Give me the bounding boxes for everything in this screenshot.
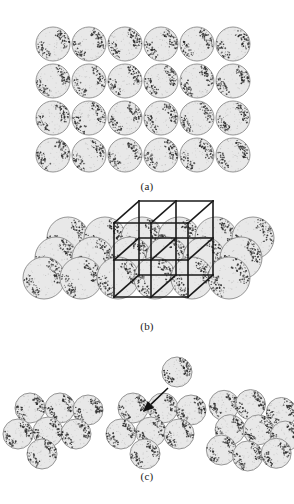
left-cluster	[3, 393, 103, 469]
sphere-r2-c4	[180, 101, 214, 135]
right-cluster-sphere-7	[233, 441, 263, 471]
sphere-r1-c4	[180, 64, 214, 98]
sphere-r2-c2	[108, 101, 142, 135]
sphere-r3-c5	[216, 138, 250, 172]
panel-a-label: (a)	[0, 180, 294, 192]
sphere-r0-c5	[216, 27, 250, 61]
sphere-r3-c4	[180, 138, 214, 172]
figure-root: (a) (b) (c)	[0, 0, 294, 504]
incoming-sphere	[162, 357, 192, 387]
middle-cluster	[106, 393, 206, 469]
sphere-r0-c2	[108, 27, 142, 61]
sphere-r3-c0	[36, 138, 70, 172]
panel-a-graphic	[0, 0, 294, 200]
sphere-r3-c1	[72, 138, 106, 172]
sphere-r0-c0	[36, 27, 70, 61]
sphere-r1-c5	[216, 64, 250, 98]
panel-c-label: (c)	[0, 470, 294, 482]
sphere-r1-c0	[36, 64, 70, 98]
right-cluster	[206, 390, 294, 471]
sphere-r3-c2	[108, 138, 142, 172]
sphere-r1-c3	[144, 64, 178, 98]
front-row-sphere-5	[208, 257, 250, 299]
sphere-r3-c3	[144, 138, 178, 172]
middle-cluster-sphere-6	[130, 439, 160, 469]
left-cluster-sphere-5	[61, 419, 91, 449]
sphere-r1-c2	[108, 64, 142, 98]
sphere-r2-c0	[36, 101, 70, 135]
front-row-sphere-1	[60, 257, 102, 299]
sphere-r2-c5	[216, 101, 250, 135]
middle-cluster-sphere-5	[164, 419, 194, 449]
right-cluster-sphere-6	[206, 435, 236, 465]
sphere-r0-c1	[72, 27, 106, 61]
sphere-r2-c3	[144, 101, 178, 135]
sphere-r0-c4	[180, 27, 214, 61]
panel-a	[0, 0, 294, 200]
left-cluster-sphere-6	[27, 439, 57, 469]
panel-b-label: (b)	[0, 320, 294, 332]
sphere-aggregate	[23, 217, 274, 299]
front-row-sphere-0	[23, 257, 65, 299]
sphere-grid	[36, 27, 250, 172]
sphere-r2-c1	[72, 101, 106, 135]
sphere-r1-c1	[72, 64, 106, 98]
sphere-r0-c3	[144, 27, 178, 61]
middle-cluster-sphere-3	[106, 419, 136, 449]
left-cluster-sphere-3	[3, 419, 33, 449]
right-cluster-sphere-8	[261, 438, 291, 468]
